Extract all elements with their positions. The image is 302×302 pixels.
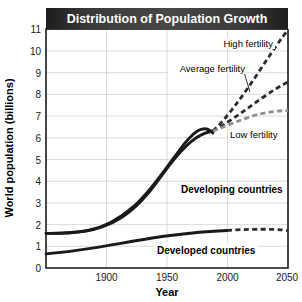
y-tick-6: 6 (35, 133, 41, 144)
chart-title: Distribution of Population Growth (67, 12, 268, 26)
y-tick-5: 5 (35, 155, 41, 166)
annotation-low-fertility-label: Low fertility (230, 129, 278, 140)
x-tick-1900: 1900 (95, 272, 118, 283)
y-tick-0: 0 (35, 263, 41, 274)
y-tick-10: 10 (30, 46, 42, 57)
y-axis-tick-labels: 0 1 2 3 4 5 6 7 8 9 10 11 (30, 24, 42, 274)
annotation-high-fertility-label: High fertility (223, 38, 273, 49)
y-axis-title: World population (billions) (3, 78, 15, 217)
chart-svg: Distribution of Population Growth 0 1 2 … (0, 0, 302, 302)
population-growth-chart: Distribution of Population Growth 0 1 2 … (0, 0, 302, 302)
annotation-developing-countries: Developing countries (178, 182, 284, 195)
annotation-average-fertility-label: Average fertility (180, 63, 246, 74)
x-tick-2000: 2000 (216, 272, 239, 283)
annotation-low-fertility: Low fertility (228, 128, 286, 140)
annotation-developing-countries-label: Developing countries (181, 184, 283, 195)
annotation-high-fertility: High fertility (213, 37, 275, 49)
x-axis-title: Year (155, 286, 179, 298)
y-tick-1: 1 (35, 241, 41, 252)
y-tick-4: 4 (35, 176, 41, 187)
y-tick-7: 7 (35, 111, 41, 122)
y-tick-9: 9 (35, 68, 41, 79)
x-tick-2050: 2050 (276, 272, 299, 283)
y-tick-3: 3 (35, 198, 41, 209)
y-tick-11: 11 (31, 24, 42, 35)
y-tick-8: 8 (35, 89, 41, 100)
x-axis-tick-labels: 1900 1950 2000 2050 (95, 272, 298, 283)
x-tick-1950: 1950 (156, 272, 179, 283)
annotation-developed-countries: Developed countries (154, 243, 258, 256)
y-tick-2: 2 (35, 220, 41, 231)
annotation-developed-countries-label: Developed countries (157, 245, 256, 256)
